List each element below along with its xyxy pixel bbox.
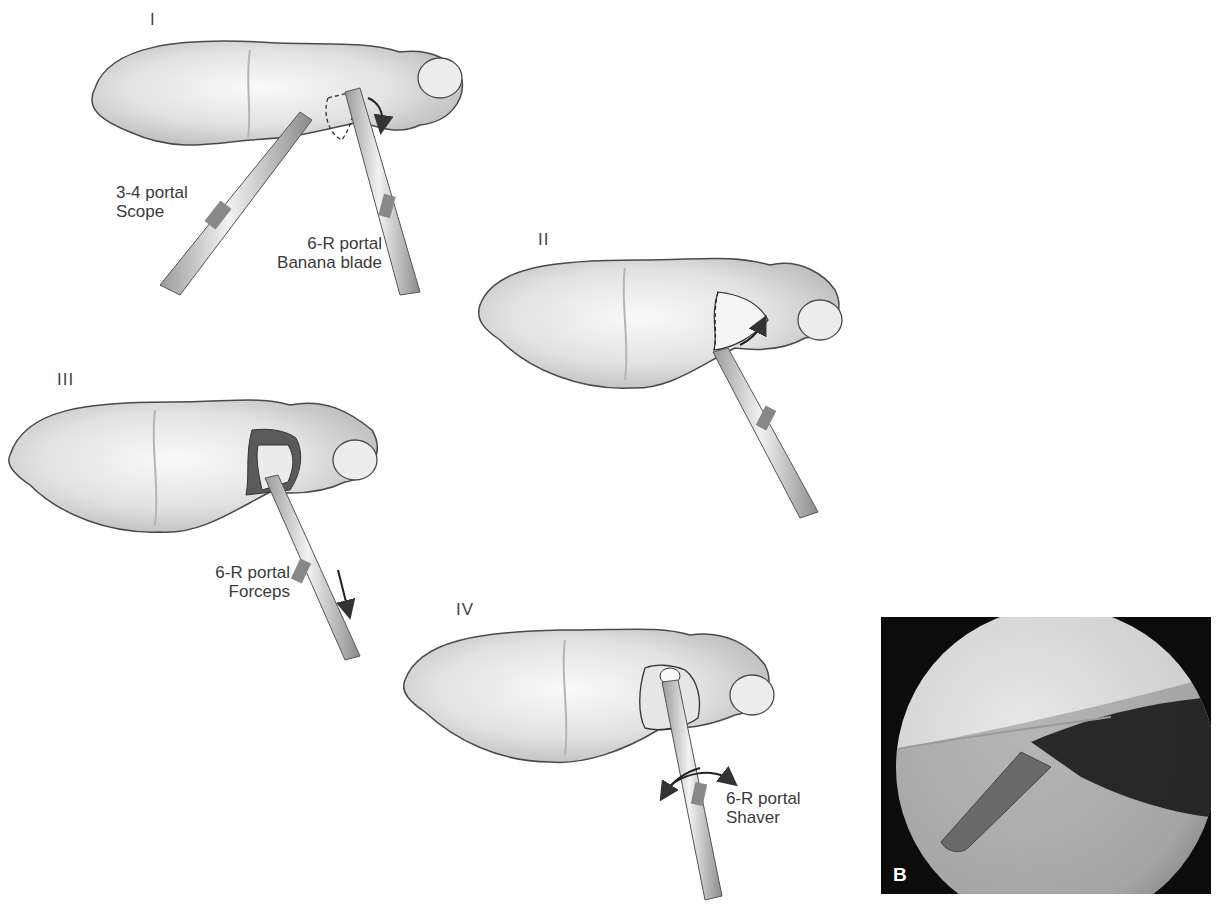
shaver-label-portal: 6-R portal xyxy=(726,789,801,808)
banana-blade-label-tool: Banana blade xyxy=(258,253,382,272)
banana-blade-label-portal: 6-R portal xyxy=(258,234,382,253)
arthroscopic-photo: B xyxy=(881,617,1211,894)
scope-label-tool: Scope xyxy=(116,202,188,221)
panel-iv: IV 6-R portal Shaver xyxy=(400,590,870,905)
panel-iii: III 6-R portal Forceps xyxy=(0,360,400,660)
panel-iii-illustration xyxy=(0,360,400,660)
forceps-label: 6-R portal Forceps xyxy=(190,563,290,601)
panel-i-illustration xyxy=(0,0,460,300)
panel-i: I 3-4 portal Scope 6-R portal Banana bla… xyxy=(0,0,460,300)
panel-iv-illustration xyxy=(400,590,870,905)
panel-ii: II xyxy=(470,220,870,520)
arthroscopic-view xyxy=(881,617,1211,894)
shaver-label-tool: Shaver xyxy=(726,808,801,827)
panel-ii-numeral: II xyxy=(538,230,549,250)
panel-iv-numeral: IV xyxy=(456,600,474,620)
scope-label: 3-4 portal Scope xyxy=(116,183,188,221)
forceps-label-portal: 6-R portal xyxy=(190,563,290,582)
panel-ii-illustration xyxy=(470,220,870,520)
panel-i-numeral: I xyxy=(150,10,156,30)
banana-blade-label: 6-R portal Banana blade xyxy=(258,234,382,272)
scope-label-portal: 3-4 portal xyxy=(116,183,188,202)
shaver-label: 6-R portal Shaver xyxy=(726,789,801,827)
photo-letter: B xyxy=(893,864,907,886)
panel-iii-numeral: III xyxy=(57,370,74,390)
forceps-label-tool: Forceps xyxy=(190,582,290,601)
